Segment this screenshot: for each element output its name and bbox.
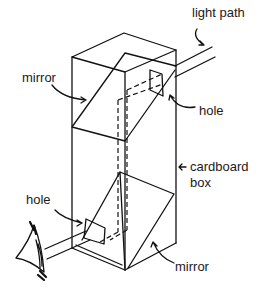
arrow-light-path: [196, 29, 204, 45]
light-path-top: [175, 47, 215, 77]
arrow-cardboard: [179, 164, 186, 170]
eyelashes-bottom: [38, 271, 46, 280]
top-mirror: [72, 53, 176, 141]
bottom-mirror: [82, 172, 174, 270]
label-mirror-top: mirror: [22, 71, 56, 85]
label-light-path: light path: [192, 6, 245, 20]
label-box: box: [190, 176, 211, 190]
arrow-hole-bottom: [55, 210, 82, 226]
hidden-light-path: [100, 74, 163, 242]
box-top-face: [72, 33, 176, 72]
arrow-mirror-top: [52, 85, 86, 103]
label-mirror-bottom: mirror: [175, 260, 209, 274]
top-hole: [150, 70, 163, 96]
periscope-diagram: light path mirror hole cardboard box hol…: [0, 0, 270, 301]
light-path-bottom: [45, 231, 90, 259]
periscope-drawing: [0, 0, 270, 301]
box-bottom-left: [72, 248, 125, 270]
label-cardboard: cardboard: [190, 160, 249, 174]
box-bottom-inner: [76, 245, 122, 265]
eye-iris: [36, 240, 42, 268]
label-hole-top: hole: [199, 104, 224, 118]
arrow-hole-top: [169, 95, 195, 108]
label-hole-bottom: hole: [26, 193, 51, 207]
